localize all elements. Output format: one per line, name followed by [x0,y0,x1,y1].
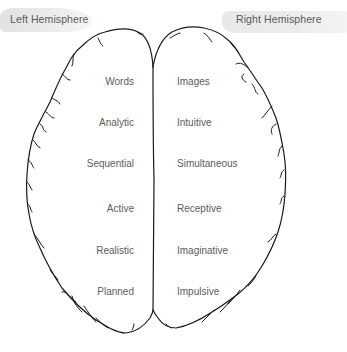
trait-sequential: Sequential [87,158,134,169]
trait-receptive: Receptive [177,203,221,214]
trait-realistic: Realistic [96,245,134,256]
trait-imaginative: Imaginative [177,245,228,256]
right-hemisphere-title: Right Hemisphere [236,13,322,25]
trait-intuitive: Intuitive [177,117,211,128]
trait-words: Words [105,76,134,87]
left-hemisphere-title: Left Hemisphere [10,13,89,25]
trait-analytic: Analytic [99,117,134,128]
trait-planned: Planned [97,286,134,297]
left-hemisphere-outline [27,29,153,333]
brain-outline-diagram [0,0,347,352]
right-hemisphere-outline [153,27,286,328]
trait-active: Active [107,203,134,214]
trait-simultaneous: Simultaneous [177,158,238,169]
longitudinal-fissure [153,67,154,310]
trait-impulsive: Impulsive [177,286,219,297]
trait-images: Images [177,76,210,87]
